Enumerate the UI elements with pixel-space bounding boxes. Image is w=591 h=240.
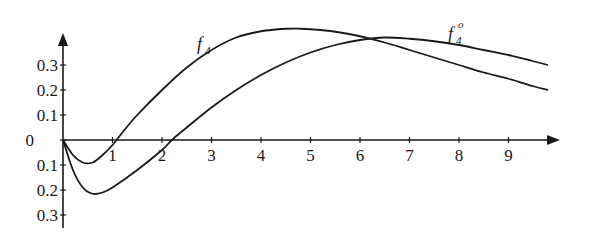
label-f4o: f bbox=[448, 24, 456, 44]
x-tick-label: 3 bbox=[207, 146, 216, 165]
x-tick-label: 8 bbox=[455, 146, 464, 165]
y-tick-label: 0.1 bbox=[37, 156, 58, 175]
y-tick-label: 0.1 bbox=[37, 106, 58, 125]
curves bbox=[63, 29, 548, 195]
y-tick-label: 0 bbox=[26, 131, 35, 150]
y-tick-label: 0.3 bbox=[37, 56, 58, 75]
x-tick-label: 9 bbox=[504, 146, 513, 165]
x-axis-arrow-icon bbox=[547, 135, 560, 145]
y-axis-arrow-icon bbox=[58, 33, 68, 46]
x-ticks: 123456789 bbox=[108, 137, 513, 165]
x-tick-label: 5 bbox=[306, 146, 315, 165]
x-tick-label: 6 bbox=[356, 146, 365, 165]
label-f4o-subscript: 4 bbox=[456, 34, 462, 46]
x-tick-label: 7 bbox=[405, 146, 414, 165]
label-f4: f bbox=[197, 34, 205, 54]
label-f4o-superscript: o bbox=[458, 18, 464, 30]
label-f4-subscript: 4 bbox=[205, 44, 211, 56]
y-tick-label: 0.3 bbox=[37, 206, 58, 225]
x-tick-label: 4 bbox=[257, 146, 266, 165]
y-tick-label: 0.2 bbox=[37, 181, 58, 200]
line-chart: 123456789 0.30.20.100.10.20.3 f4f4o bbox=[0, 0, 591, 240]
y-tick-label: 0.2 bbox=[37, 81, 58, 100]
y-ticks: 0.30.20.100.10.20.3 bbox=[26, 56, 67, 225]
axes bbox=[58, 33, 560, 228]
